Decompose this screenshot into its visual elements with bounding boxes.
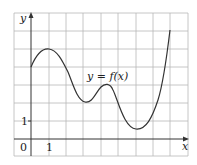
axes [14,15,186,156]
function-graph: y x 0 1 1 y = f(x) [0,0,197,165]
origin-label: 0 [20,141,27,154]
curve-annotation: y = f(x) [86,70,128,83]
y-axis-label: y [19,12,27,25]
y-tick-label-1: 1 [21,115,28,128]
x-axis-label: x [182,140,189,153]
x-tick-label-1: 1 [46,141,53,154]
